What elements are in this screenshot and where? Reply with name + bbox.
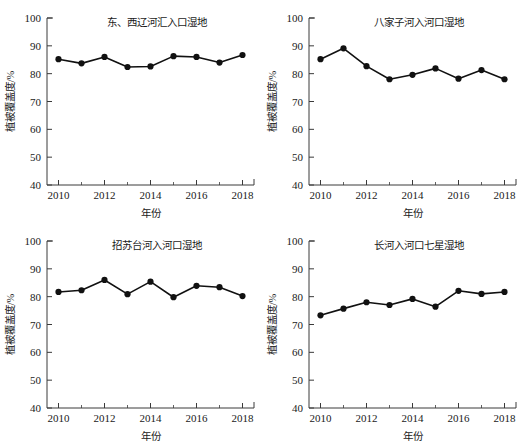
y-tick-label: 50 xyxy=(30,151,42,163)
chart-panel-top-left: 405060708090100201020122014201620182010:… xyxy=(0,0,262,223)
x-tick-label: 2012 xyxy=(356,189,378,201)
x-axis-title: 年份 xyxy=(141,207,162,219)
y-axis-title: 植被覆盖度/% xyxy=(4,70,16,132)
data-point: 2017: 83.4 xyxy=(216,284,222,290)
data-point: 2012: 78 xyxy=(363,299,369,305)
data-point: 2014: 85.4 xyxy=(147,279,153,285)
data-point: 2010: 81.7 xyxy=(55,289,61,295)
data-point: 2010: 85.2 xyxy=(317,56,323,62)
data-point: 2012: 82.7 xyxy=(363,63,369,69)
y-tick-label: 70 xyxy=(292,319,304,331)
y-tick-label: 80 xyxy=(30,68,42,80)
x-tick-label: 2016 xyxy=(448,189,471,201)
data-point: 2011: 75.7 xyxy=(340,306,346,312)
x-tick-label: 2016 xyxy=(186,412,209,424)
y-tick-label: 90 xyxy=(30,263,42,275)
x-tick-label: 2018 xyxy=(232,189,255,201)
line-chart-top-left: 405060708090100201020122014201620182010:… xyxy=(0,0,262,223)
axis-frame xyxy=(47,241,254,408)
data-point: 2013: 80.9 xyxy=(124,291,130,297)
y-tick-label: 40 xyxy=(30,179,42,191)
y-tick-label: 40 xyxy=(292,402,304,414)
y-tick-label: 60 xyxy=(292,123,304,135)
data-point: 2012: 86 xyxy=(101,54,107,60)
y-tick-label: 70 xyxy=(30,319,42,331)
x-tick-label: 2012 xyxy=(356,412,378,424)
data-point: 2013: 77 xyxy=(386,302,392,308)
data-point: 2018: 86.7 xyxy=(239,52,245,58)
axis-frame xyxy=(309,18,516,185)
axis-frame xyxy=(47,18,254,185)
data-point: 2013: 82.4 xyxy=(124,64,130,70)
x-axis-title: 年份 xyxy=(403,207,424,219)
x-tick-label: 2018 xyxy=(232,412,255,424)
chart-panel-top-right: 405060708090100201020122014201620182010:… xyxy=(262,0,524,223)
chart-panel-bottom-right: 405060708090100201020122014201620182010:… xyxy=(262,223,524,446)
x-tick-label: 2018 xyxy=(494,412,517,424)
x-tick-label: 2010 xyxy=(48,189,71,201)
y-axis-title: 植被覆盖度/% xyxy=(4,293,16,355)
y-tick-label: 90 xyxy=(292,40,304,52)
data-point: 2014: 79.2 xyxy=(409,296,415,302)
y-tick-label: 70 xyxy=(30,96,42,108)
chart-panel-bottom-left: 405060708090100201020122014201620182010:… xyxy=(0,223,262,446)
data-point: 2018: 80.2 xyxy=(239,293,245,299)
x-tick-label: 2010 xyxy=(310,189,333,201)
data-point: 2015: 76.4 xyxy=(432,304,438,310)
y-tick-label: 60 xyxy=(30,123,42,135)
x-tick-label: 2014 xyxy=(402,412,425,424)
y-tick-label: 70 xyxy=(292,96,304,108)
y-tick-label: 90 xyxy=(292,263,304,275)
data-point: 2017: 81 xyxy=(478,291,484,297)
y-tick-label: 50 xyxy=(292,151,304,163)
data-point: 2015: 79.8 xyxy=(170,294,176,300)
line-chart-top-right: 405060708090100201020122014201620182010:… xyxy=(262,0,524,223)
data-point: 2014: 79.6 xyxy=(409,72,415,78)
y-tick-label: 60 xyxy=(30,346,42,358)
y-axis-title: 植被覆盖度/% xyxy=(266,70,278,132)
x-tick-label: 2012 xyxy=(94,412,116,424)
y-tick-label: 80 xyxy=(292,68,304,80)
data-point: 2015: 86.3 xyxy=(170,53,176,59)
data-point: 2018: 81.7 xyxy=(501,289,507,295)
panel-title: 东、西辽河汇入口湿地 xyxy=(107,16,208,28)
y-tick-label: 100 xyxy=(287,235,304,247)
x-tick-label: 2010 xyxy=(48,412,71,424)
data-point: 2017: 81.3 xyxy=(478,67,484,73)
data-point: 2011: 83.7 xyxy=(78,60,84,66)
data-point: 2016: 82.1 xyxy=(455,288,461,294)
data-point: 2016: 83.9 xyxy=(193,283,199,289)
data-point: 2016: 86 xyxy=(193,54,199,60)
axis-frame xyxy=(309,241,516,408)
data-point: 2015: 81.9 xyxy=(432,65,438,71)
y-tick-label: 90 xyxy=(30,40,42,52)
x-tick-label: 2016 xyxy=(186,189,209,201)
y-tick-label: 80 xyxy=(30,291,42,303)
x-tick-label: 2014 xyxy=(140,412,163,424)
x-axis-title: 年份 xyxy=(141,430,162,442)
x-tick-label: 2010 xyxy=(310,412,333,424)
x-tick-label: 2014 xyxy=(140,189,163,201)
data-point: 2013: 78 xyxy=(386,76,392,82)
y-tick-label: 100 xyxy=(25,12,42,24)
y-tick-label: 40 xyxy=(292,179,304,191)
x-tick-label: 2014 xyxy=(402,189,425,201)
x-tick-label: 2018 xyxy=(494,189,517,201)
panel-title: 长河入河口七星湿地 xyxy=(374,239,465,251)
panel-title: 八家子河入河口湿地 xyxy=(374,16,465,28)
x-tick-label: 2012 xyxy=(94,189,116,201)
x-axis-title: 年份 xyxy=(403,430,424,442)
data-point: 2010: 73.3 xyxy=(317,312,323,318)
y-tick-label: 50 xyxy=(292,374,304,386)
series-line xyxy=(321,291,505,316)
y-axis-title: 植被覆盖度/% xyxy=(266,293,278,355)
y-tick-label: 80 xyxy=(292,291,304,303)
data-point: 2011: 82.3 xyxy=(78,287,84,293)
data-point: 2017: 84 xyxy=(216,59,222,65)
line-chart-bottom-left: 405060708090100201020122014201620182010:… xyxy=(0,223,262,446)
y-tick-label: 100 xyxy=(25,235,42,247)
y-tick-label: 50 xyxy=(30,374,42,386)
x-tick-label: 2016 xyxy=(448,412,471,424)
panel-title: 招苏台河入河口湿地 xyxy=(112,239,203,251)
y-tick-label: 40 xyxy=(30,402,42,414)
